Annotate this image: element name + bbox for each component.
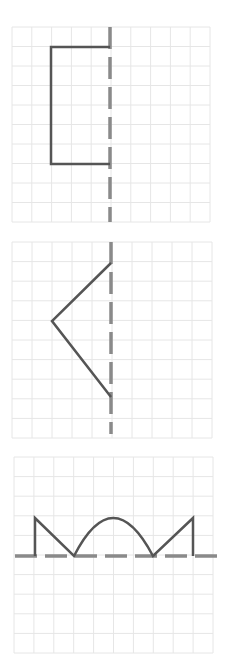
panel-1: [12, 27, 210, 222]
chevron-shape: [52, 263, 111, 397]
symmetry-diagram: [0, 0, 234, 664]
panel-2: [12, 242, 212, 438]
panel-3: [14, 457, 218, 653]
symmetry-figure: [0, 0, 234, 664]
